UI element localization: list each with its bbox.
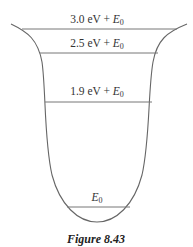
figure-caption: Figure 8.43 <box>67 232 125 247</box>
level-label-1-9: 1.9 eV + E0 <box>70 86 124 99</box>
level-label-e0: E0 <box>91 192 102 205</box>
level-label-3-0: 3.0 eV + E0 <box>70 14 124 27</box>
level-label-2-5: 2.5 eV + E0 <box>70 38 124 51</box>
